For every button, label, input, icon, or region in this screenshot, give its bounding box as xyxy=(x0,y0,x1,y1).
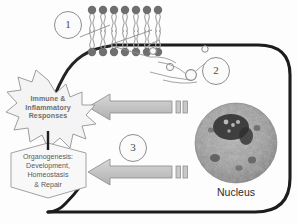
step-badge-2[interactable]: 2 xyxy=(202,57,230,85)
organogenesis-line-1: Organogenesis: xyxy=(11,153,85,162)
step-badge-1[interactable]: 1 xyxy=(54,11,82,39)
arrow-lower xyxy=(88,159,188,185)
organogenesis-line-3: Homeostasis xyxy=(11,171,85,180)
immune-response-line-3: Responses xyxy=(11,112,85,121)
organogenesis-line-4: & Repair xyxy=(11,181,85,190)
organogenesis-label: Organogenesis: Development, Homeostasis … xyxy=(11,153,85,190)
immune-response-line-2: Inflammatory xyxy=(11,104,85,113)
nucleus-label: Nucleus xyxy=(196,186,276,198)
organogenesis-line-2: Development, xyxy=(11,162,85,171)
arrow-upper xyxy=(88,94,188,120)
bilayer-upper-leaflet xyxy=(88,6,162,32)
nucleus xyxy=(195,103,277,183)
step-badge-3[interactable]: 3 xyxy=(119,134,147,162)
diagram-canvas: 1 2 3 Immune & Inflammatory Responses Or… xyxy=(0,0,298,224)
immune-response-label: Immune & Inflammatory Responses xyxy=(11,95,85,121)
immune-response-line-1: Immune & xyxy=(11,95,85,104)
